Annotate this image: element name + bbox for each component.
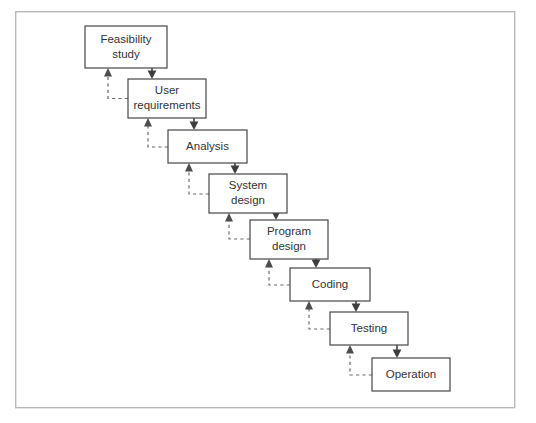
stage-label-testing-line1: Testing: [351, 322, 387, 334]
stage-label-program-design-line2: design: [272, 240, 306, 252]
stage-label-system-design-line1: System: [229, 179, 267, 191]
stage-label-operation-line1: Operation: [386, 368, 437, 380]
stage-box-user-requirements[interactable]: User requirements: [128, 79, 206, 118]
waterfall-model-diagram: Feasibility study User requirements Anal…: [0, 0, 536, 423]
stage-box-feasibility-study[interactable]: Feasibility study: [85, 26, 167, 68]
stage-label-feasibility-study-line1: Feasibility: [100, 33, 151, 45]
stage-box-program-design[interactable]: Program design: [250, 220, 328, 259]
stage-label-user-requirements-line1: User: [155, 84, 179, 96]
stage-label-program-design-line1: Program: [267, 225, 311, 237]
stage-label-analysis-line1: Analysis: [186, 140, 229, 152]
diagram-canvas: Feasibility study User requirements Anal…: [0, 0, 536, 423]
stage-label-coding-line1: Coding: [312, 278, 348, 290]
stage-label-system-design-line2: design: [231, 194, 265, 206]
stage-label-feasibility-study-line2: study: [112, 48, 140, 60]
stage-box-testing[interactable]: Testing: [330, 312, 408, 345]
stage-box-coding[interactable]: Coding: [290, 268, 370, 301]
stage-label-user-requirements-line2: requirements: [133, 99, 200, 111]
stage-box-analysis[interactable]: Analysis: [168, 130, 247, 163]
stage-box-system-design[interactable]: System design: [209, 174, 287, 213]
stage-box-operation[interactable]: Operation: [372, 358, 450, 391]
